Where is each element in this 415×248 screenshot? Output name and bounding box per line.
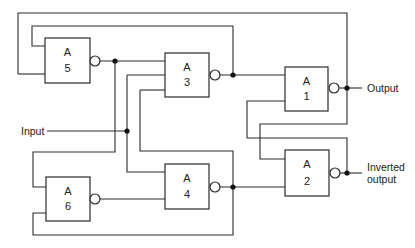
gate-number-label: 4 <box>184 188 190 200</box>
junction-dot-icon <box>230 184 235 189</box>
gate-name-label: A <box>303 158 311 170</box>
gate-a2: A2 <box>285 150 340 196</box>
gate-box <box>285 67 328 111</box>
inverter-bubble-icon <box>210 70 220 80</box>
inverted-output-label-line2: output <box>367 173 396 185</box>
junction-dot-icon <box>124 128 129 133</box>
gate-name-label: A <box>183 172 191 184</box>
inverted-output-label-line1: Inverted <box>367 161 405 173</box>
gate-a4: A4 <box>165 164 220 209</box>
gate-number-label: 1 <box>303 90 309 102</box>
output-label: Output <box>367 82 399 94</box>
junction-dot-icon <box>344 170 349 175</box>
gate-a6: A6 <box>46 177 100 221</box>
gate-a1: A1 <box>285 67 339 111</box>
gate-box <box>285 150 329 196</box>
gate-number-label: 6 <box>65 200 71 212</box>
gate-a3: A3 <box>165 53 220 97</box>
inverter-bubble-icon <box>329 83 339 93</box>
inverter-bubble-icon <box>90 56 100 66</box>
input-label: Input <box>21 125 44 137</box>
gate-number-label: 5 <box>64 62 70 74</box>
junction-dot-icon <box>344 85 349 90</box>
gate-number-label: 2 <box>304 175 310 187</box>
gate-box <box>165 53 209 97</box>
gate-name-label: A <box>183 61 191 73</box>
junction-dot-icon <box>112 58 117 63</box>
nand-latch-circuit-diagram: A1A2A3A4A5A6 Input Output Inverted outpu… <box>0 0 415 248</box>
gate-name-label: A <box>64 46 72 58</box>
gate-number-label: 3 <box>184 76 190 88</box>
gate-name-label: A <box>303 75 311 87</box>
inverter-bubble-icon <box>330 168 340 178</box>
gate-box <box>165 164 209 209</box>
gate-a5: A5 <box>45 38 100 83</box>
junction-dot-icon <box>230 72 235 77</box>
inverter-bubble-icon <box>210 182 220 192</box>
gate-box <box>46 177 90 221</box>
gate-name-label: A <box>64 185 72 197</box>
inverter-bubble-icon <box>90 194 100 204</box>
gate-box <box>45 38 90 83</box>
gates: A1A2A3A4A5A6 <box>45 38 340 221</box>
